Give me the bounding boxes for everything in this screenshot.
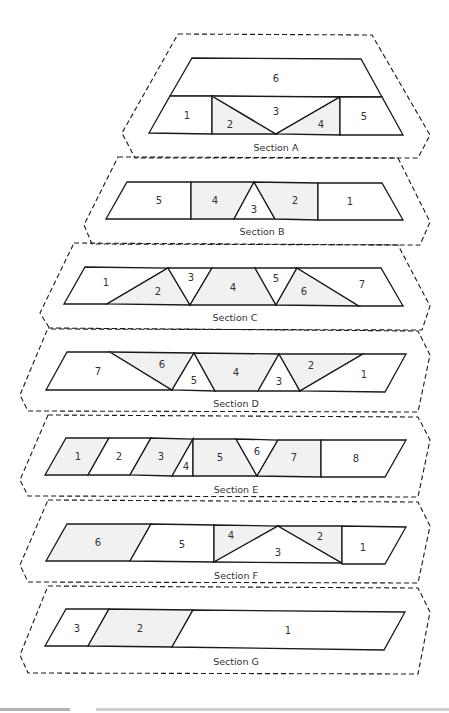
piece-1 bbox=[149, 96, 212, 134]
piece-label: 1 bbox=[75, 451, 81, 462]
piece-label: 3 bbox=[74, 623, 80, 634]
scan-artifact bbox=[96, 708, 449, 711]
piece-label: 3 bbox=[251, 204, 257, 215]
piece-label: 1 bbox=[285, 625, 291, 636]
piece-label: 5 bbox=[217, 452, 223, 463]
section-caption: Section D bbox=[213, 398, 259, 409]
piece-label: 4 bbox=[183, 461, 189, 472]
piece-label: 6 bbox=[301, 286, 307, 297]
piece-1 bbox=[342, 526, 406, 564]
piece-1 bbox=[318, 183, 403, 220]
section-a: 612345Section A bbox=[122, 34, 430, 158]
piece-label: 4 bbox=[228, 530, 234, 541]
section-d: 7654321Section D bbox=[20, 328, 430, 412]
piece-label: 2 bbox=[317, 531, 323, 542]
piece-label: 3 bbox=[276, 376, 282, 387]
piece-label: 6 bbox=[95, 537, 101, 548]
piece-label: 5 bbox=[156, 195, 162, 206]
piece-label: 3 bbox=[158, 451, 164, 462]
section-caption: Section C bbox=[213, 312, 258, 323]
piece-label: 6 bbox=[273, 73, 279, 84]
piece-label: 2 bbox=[292, 195, 298, 206]
piece-label: 3 bbox=[275, 547, 281, 558]
piece-label: 5 bbox=[273, 273, 279, 284]
section-c: 1234567Section C bbox=[40, 243, 430, 330]
piece-label: 1 bbox=[361, 369, 367, 380]
piece-label: 4 bbox=[230, 282, 236, 293]
piece-label: 8 bbox=[353, 453, 359, 464]
piece-label: 6 bbox=[254, 446, 260, 457]
piece-label: 5 bbox=[179, 539, 185, 550]
piece-label: 3 bbox=[188, 272, 194, 283]
section-b: 54321Section B bbox=[84, 157, 430, 245]
section-diagram: 612345Section A54321Section B1234567Sect… bbox=[0, 0, 449, 713]
piece-label: 1 bbox=[360, 542, 366, 553]
piece-label: 4 bbox=[212, 195, 218, 206]
section-caption: Section F bbox=[214, 570, 258, 581]
section-caption: Section G bbox=[213, 656, 259, 667]
piece-label: 4 bbox=[318, 119, 324, 130]
piece-label: 2 bbox=[308, 360, 314, 371]
piece-label: 5 bbox=[361, 111, 367, 122]
piece-label: 5 bbox=[191, 375, 197, 386]
piece-5 bbox=[106, 182, 191, 219]
section-caption: Section B bbox=[240, 226, 285, 237]
piece-label: 1 bbox=[184, 110, 190, 121]
scan-artifact bbox=[0, 708, 70, 711]
piece-label: 2 bbox=[116, 451, 122, 462]
section-caption: Section A bbox=[254, 142, 299, 153]
piece-label: 1 bbox=[103, 277, 109, 288]
piece-label: 2 bbox=[227, 119, 233, 130]
piece-label: 2 bbox=[155, 286, 161, 297]
piece-8 bbox=[321, 440, 406, 477]
section-caption: Section E bbox=[214, 484, 258, 495]
section-g: 321Section G bbox=[20, 586, 430, 674]
piece-label: 1 bbox=[347, 196, 353, 207]
piece-label: 3 bbox=[273, 106, 279, 117]
piece-label: 7 bbox=[359, 279, 365, 290]
section-e: 12345678Section E bbox=[20, 415, 430, 497]
piece-label: 6 bbox=[159, 359, 165, 370]
piece-label: 4 bbox=[233, 367, 239, 378]
piece-label: 7 bbox=[95, 366, 101, 377]
piece-5 bbox=[340, 97, 403, 135]
section-f: 654321Section F bbox=[20, 500, 430, 583]
piece-label: 2 bbox=[137, 623, 143, 634]
piece-label: 7 bbox=[291, 452, 297, 463]
